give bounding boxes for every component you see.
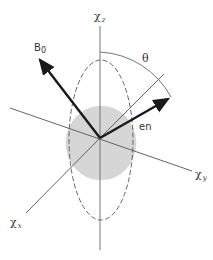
chi-z-label: χz (94, 10, 106, 24)
b0-label: B0 (34, 42, 46, 55)
susceptibility-tensor-diagram: χz B0 θ en χy χx (0, 0, 213, 260)
theta-label: θ (142, 52, 149, 65)
en-label: en (139, 121, 152, 132)
chi-y-label: χy (195, 168, 208, 182)
theta-arc (100, 52, 171, 97)
shaded-ellipsoid (66, 106, 136, 180)
chi-x-label: χx (10, 216, 22, 230)
